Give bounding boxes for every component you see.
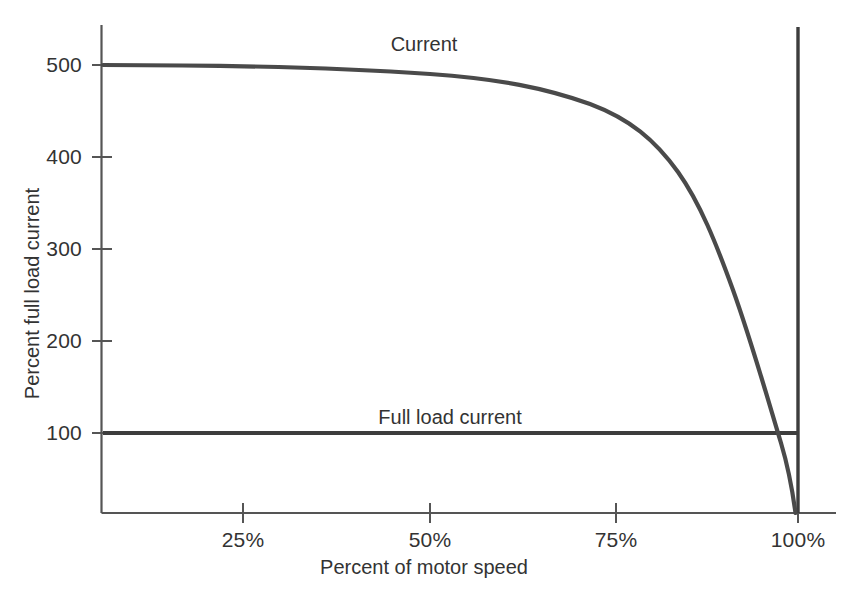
x-axis-title: Percent of motor speed xyxy=(0,556,848,579)
y-tick-label-500: 500 xyxy=(20,53,82,77)
chart-plot-area xyxy=(0,0,848,595)
x-tick-label-100: 100% xyxy=(771,528,826,552)
motor-current-speed-chart: 500 400 300 200 100 25% 50% 75% 100% Per… xyxy=(0,0,848,595)
x-tick-label-50: 50% xyxy=(409,528,452,552)
x-tick-label-75: 75% xyxy=(595,528,638,552)
current-curve xyxy=(103,65,796,513)
current-curve-label: Current xyxy=(391,33,458,56)
full-load-current-label: Full load current xyxy=(378,406,521,429)
x-tick-label-25: 25% xyxy=(222,528,265,552)
y-axis-title: Percent full load current xyxy=(21,154,44,434)
